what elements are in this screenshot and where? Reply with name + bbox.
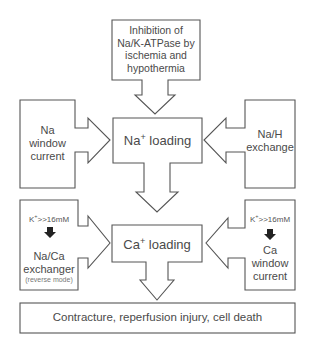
ca-window-line-2: window [245, 257, 295, 270]
top-box-text: Inhibition of Na/K-ATPase by ischemia an… [112, 24, 200, 74]
na-ca-note: (reverse mode) [20, 276, 78, 284]
na-ca-cond-rest: >>16mM [38, 215, 70, 224]
na-rest: loading [146, 133, 192, 148]
ca-window-text: Ca window current [245, 244, 295, 284]
na-ca-text: Na/Ca exchanger [20, 250, 78, 276]
na-loading-label: Na+ loading [113, 132, 202, 149]
na-base: Na [124, 133, 141, 148]
na-h-text: Na/H exchange [245, 128, 295, 154]
na-h-line-1: Na/H [245, 128, 295, 141]
na-window-text: Na window current [20, 124, 75, 164]
top-line-4: hypothermia [112, 62, 200, 75]
na-window-line-2: window [20, 137, 75, 150]
ca-window-line-3: current [245, 270, 295, 283]
na-h-line-2: exchange [245, 141, 295, 154]
outcome-text: Contracture, reperfusion injury, cell de… [20, 311, 295, 325]
na-ca-condition: K+>>16mM [20, 213, 78, 224]
ca-rest: loading [145, 237, 191, 252]
top-line-2: Na/K-ATPase by [112, 37, 200, 50]
ca-window-cond-rest: >>16mM [259, 215, 291, 224]
ca-window-condition: K+>>16mM [245, 213, 295, 224]
na-window-line-1: Na [20, 124, 75, 137]
ca-window-line-1: Ca [245, 244, 295, 257]
na-window-line-3: current [20, 150, 75, 163]
top-line-1: Inhibition of [112, 24, 200, 37]
top-line-3: ischemia and [112, 49, 200, 62]
na-ca-line-1: Na/Ca [20, 250, 78, 263]
na-ca-line-2: exchanger [20, 263, 78, 276]
ca-loading-label: Ca+ loading [112, 236, 202, 253]
ca-base: Ca [123, 237, 140, 252]
